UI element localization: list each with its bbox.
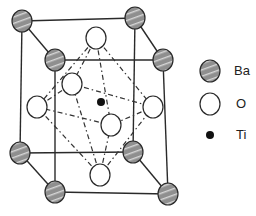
perovskite-unit-cell-diagram [0, 0, 256, 216]
legend-ti-icon [206, 131, 214, 139]
legend-label-ba: Ba [234, 63, 250, 78]
ba-atom-back-bottom-left [10, 142, 30, 164]
legend-label-o: O [236, 96, 246, 111]
o-atom-back [62, 73, 82, 95]
o-atom-left [27, 96, 47, 118]
ba-atom-front-top-right [153, 49, 173, 71]
o-atom-top [86, 27, 106, 49]
ba-atom-front-bottom-left [45, 181, 65, 203]
legend-label-ti: Ti [236, 127, 246, 142]
ba-atom-back-top-right [125, 7, 145, 29]
o-atom-bottom [90, 164, 110, 186]
ti-atom-center [97, 98, 105, 106]
o-atom-right [143, 96, 163, 118]
legend-ba-icon [200, 60, 220, 82]
ba-atom-front-top-left [45, 49, 65, 71]
ba-atom-back-bottom-right [123, 141, 143, 163]
ba-atom-back-top-left [12, 10, 32, 32]
legend [200, 60, 220, 139]
o-atom-front [101, 114, 121, 136]
legend-o-icon [200, 93, 220, 115]
ba-atom-front-bottom-right [158, 183, 178, 205]
